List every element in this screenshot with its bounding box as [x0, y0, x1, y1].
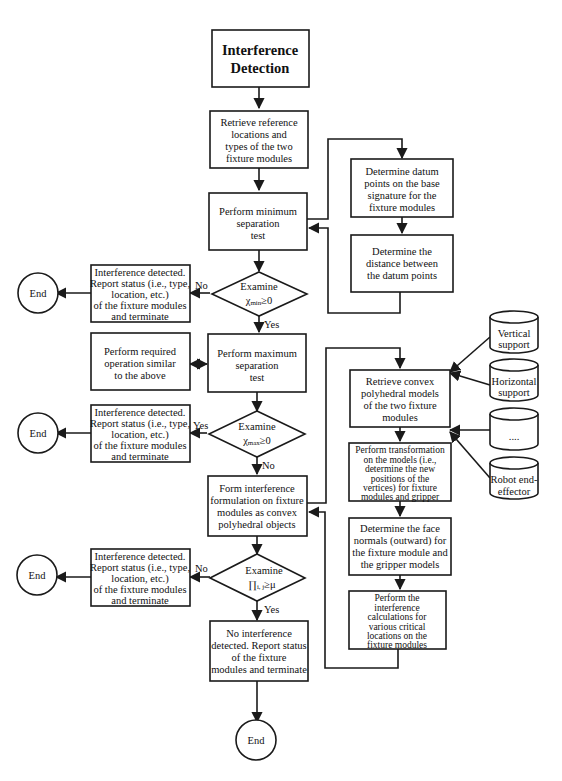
box-text: operation similar [104, 358, 176, 369]
yes-label: Yes [264, 319, 279, 330]
box-text: No interference [226, 628, 292, 639]
box-text: of the two fixture [363, 400, 437, 411]
box-text: positions of the [371, 474, 430, 484]
box-text: separation [236, 218, 280, 229]
box-text: Interference detected. [95, 267, 186, 278]
db-text: .... [509, 431, 520, 442]
box-text: to the above [114, 370, 166, 381]
box-text: the fixture module and [352, 547, 448, 558]
datum-distance-box: Determine the distance between the datum… [351, 235, 453, 292]
transformation-box: Perform transformation on the models (i.… [349, 443, 451, 502]
database-vertical-support: Vertical support [490, 311, 538, 353]
box-text: Interference detected. [95, 551, 186, 562]
database-robot-end-effector: Robot end- effector [490, 457, 538, 499]
database-horizontal-support: Horizontal support [490, 359, 538, 401]
box-text: test [250, 372, 265, 383]
box-text: of the fixture [232, 652, 287, 663]
face-normals-box: Determine the face normals (outward) for… [349, 518, 451, 575]
box-text: modules and terminate [211, 664, 307, 675]
no-label: No [195, 563, 208, 574]
db-text: Vertical [498, 328, 531, 339]
db-text: Robot end- [491, 474, 538, 485]
end-text: End [248, 735, 266, 746]
box-text: calculations for [368, 612, 428, 622]
box-text: fixture modules [369, 202, 435, 213]
end-terminal-2: End [18, 413, 58, 453]
max-separation-test-box: Perform maximum separation test [208, 334, 306, 392]
interference-detected-box-1: Interference detected. Report status (i.… [90, 265, 190, 322]
box-text: determine the new [365, 464, 435, 474]
end-terminal-1: End [18, 273, 58, 313]
box-text: the datum points [367, 270, 437, 281]
box-text: fixture modules [226, 153, 292, 164]
box-text: Perform minimum [219, 206, 297, 217]
end-text: End [30, 288, 48, 299]
box-text: detected. Report status [211, 640, 306, 651]
required-operation-box: Perform required operation similar to th… [91, 333, 190, 390]
box-text: the gripper models [361, 559, 440, 570]
db-text: support [498, 339, 530, 350]
diamond-text: Examine [238, 421, 276, 432]
box-text: and terminate [111, 451, 169, 462]
title-box: Interference Detection [212, 30, 309, 87]
box-text: interference [374, 603, 419, 613]
box-text: Form interference [219, 483, 295, 494]
box-text: points on the base [364, 178, 440, 189]
examine-pi-diamond: Examine ∏i, j≥μ [210, 554, 305, 601]
box-text: polyhedral models [361, 388, 439, 399]
box-text: Determine the [372, 246, 432, 257]
retrieve-reference-box: Retrieve reference locations and types o… [210, 111, 308, 168]
box-text: types of the two [225, 141, 292, 152]
box-text: Retrieve convex [366, 376, 435, 387]
end-text: End [30, 428, 48, 439]
box-text: Interference detected. [95, 407, 186, 418]
box-text: fixture modules [367, 640, 427, 650]
interference-detected-box-2: Interference detected. Report status (i.… [90, 405, 190, 462]
db-text: Horizontal [492, 376, 537, 387]
box-text: Perform maximum [217, 348, 297, 359]
yes-label: Yes [193, 420, 208, 431]
examine-chi-max-diamond: Examine χmax≥0 [209, 411, 305, 457]
title-line-1: Interference [222, 42, 299, 58]
box-text: Determine datum [365, 166, 438, 177]
no-label: No [195, 280, 208, 291]
form-formulation-box: Form interference formulation on fixture… [208, 476, 307, 536]
box-text: of the fixture modules [93, 440, 186, 451]
no-interference-box: No interference detected. Report status … [210, 621, 308, 681]
box-text: Perform required [104, 346, 177, 357]
box-text: formulation on fixture [210, 495, 304, 506]
box-text: separation [235, 360, 279, 371]
box-text: locations and [231, 129, 287, 140]
box-text: of the fixture modules [93, 300, 186, 311]
box-text: and terminate [111, 595, 169, 606]
retrieve-convex-box: Retrieve convex polyhedral models of the… [350, 370, 450, 427]
diamond-text: Examine [240, 281, 278, 292]
database-other: .... [490, 408, 538, 450]
box-text: distance between [366, 258, 439, 269]
end-terminal-3: End [17, 555, 57, 595]
min-separation-test-box: Perform minimum separation test [209, 193, 307, 250]
box-text: signature for the [368, 190, 437, 201]
title-line-2: Detection [231, 60, 290, 76]
diamond-text: Examine [245, 565, 283, 576]
box-text: modules as convex [217, 507, 298, 518]
box-text: Retrieve reference [220, 117, 298, 128]
interference-detected-box-3: Interference detected. Report status (i.… [90, 549, 190, 606]
box-text: modules and gripper [361, 492, 440, 502]
box-text: various critical [369, 622, 426, 632]
box-text: modules [382, 412, 418, 423]
interference-calculations-box: Perform the interference calculations fo… [349, 591, 446, 650]
box-text: polyhedral objects [218, 519, 295, 530]
examine-chi-min-diamond: Examine χmin≥0 [212, 272, 307, 316]
box-text: normals (outward) for [354, 535, 447, 547]
no-label: No [262, 460, 275, 471]
box-text: Perform the [374, 593, 419, 603]
yes-label: Yes [264, 604, 279, 615]
box-text: test [251, 230, 266, 241]
end-terminal-final: End [236, 720, 276, 760]
box-text: Determine the face [360, 523, 440, 534]
box-text: and terminate [111, 311, 169, 322]
box-text: Perform transformation [355, 445, 445, 455]
datum-points-box: Determine datum points on the base signa… [351, 159, 453, 217]
box-text: of the fixture modules [93, 584, 186, 595]
